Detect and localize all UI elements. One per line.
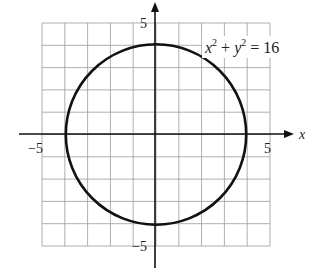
y-tick-label-neg5: −5 [132,239,147,254]
y-tick-label-5: 5 [140,16,147,31]
x-axis-arrow-icon [284,130,294,138]
circle-graph: x2 + y2 = 16 −5 5 5 −5 x [0,0,315,278]
x-tick-label-neg5: −5 [28,141,43,156]
x-tick-label-5: 5 [264,141,271,156]
y-axis-arrow-icon [151,2,159,12]
x-axis-label: x [298,127,306,142]
